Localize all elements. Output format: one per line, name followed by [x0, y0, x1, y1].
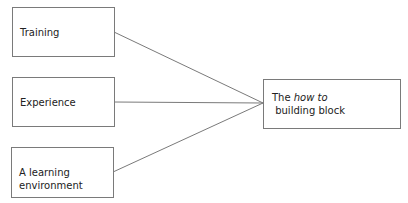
- edge-learning-environment-to-output: [113, 103, 263, 172]
- output-box-how-to-building-block: The how to building block: [263, 79, 401, 129]
- input-box-training: Training: [12, 7, 115, 57]
- edge-experience-to-output: [114, 102, 263, 103]
- output-label-prefix: The: [272, 92, 294, 103]
- input-label: Experience: [20, 96, 76, 109]
- edge-training-to-output: [114, 32, 263, 103]
- input-label: A learning environment: [19, 166, 89, 192]
- input-box-learning-environment: A learning environment: [11, 147, 114, 198]
- output-label-suffix: building block: [272, 105, 345, 116]
- output-label: The how to building block: [272, 91, 400, 117]
- output-label-italic: how to: [294, 92, 328, 103]
- input-box-experience: Experience: [12, 77, 115, 127]
- input-label: Training: [20, 26, 59, 39]
